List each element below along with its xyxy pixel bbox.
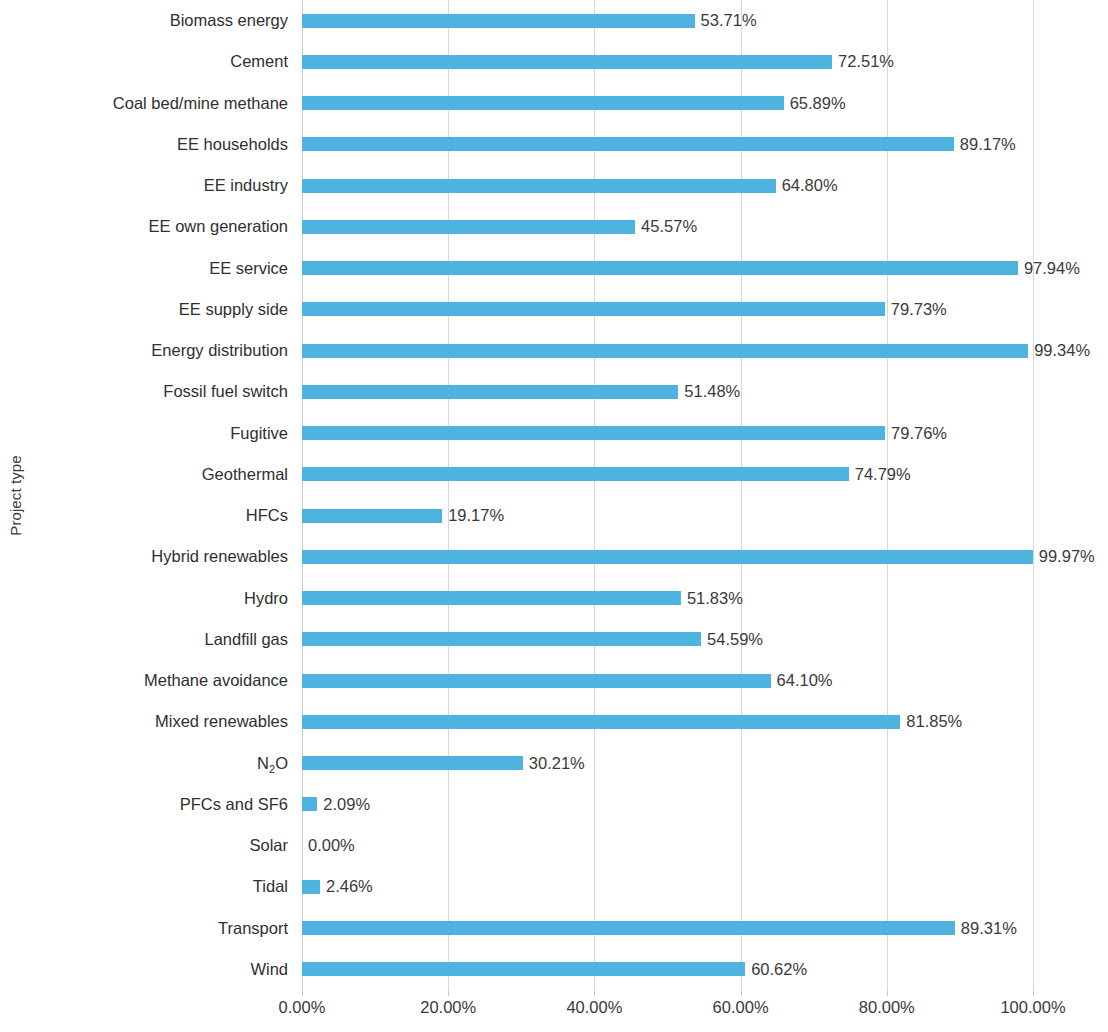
bar[interactable] xyxy=(302,385,678,399)
bar-row[interactable]: N2O30.21% xyxy=(0,743,1108,784)
bar-row[interactable]: PFCs and SF62.09% xyxy=(0,784,1108,825)
bar[interactable] xyxy=(302,302,885,316)
bar[interactable] xyxy=(302,55,832,69)
bar[interactable] xyxy=(302,261,1018,275)
bar-row[interactable]: Mixed renewables81.85% xyxy=(0,701,1108,742)
bar-row[interactable]: Solar0.00% xyxy=(0,825,1108,866)
x-axis-tick-label: 60.00% xyxy=(713,998,769,1017)
category-label: Tidal xyxy=(0,866,288,907)
bar[interactable] xyxy=(302,591,681,605)
category-label: EE supply side xyxy=(0,289,288,330)
bar-row[interactable]: EE own generation45.57% xyxy=(0,206,1108,247)
bar[interactable] xyxy=(302,550,1033,564)
bar-row[interactable]: Hybrid renewables99.97% xyxy=(0,536,1108,577)
bar[interactable] xyxy=(302,344,1028,358)
bar-row[interactable]: Geothermal74.79% xyxy=(0,454,1108,495)
bar-row[interactable]: HFCs19.17% xyxy=(0,495,1108,536)
bar[interactable] xyxy=(302,880,320,894)
bar-row[interactable]: Cement72.51% xyxy=(0,41,1108,82)
bar[interactable] xyxy=(302,220,635,234)
bar-value-label: 2.46% xyxy=(326,866,373,907)
category-label: Energy distribution xyxy=(0,330,288,371)
bar-row[interactable]: EE service97.94% xyxy=(0,248,1108,289)
x-axis-tick-label: 20.00% xyxy=(420,998,476,1017)
bar-row[interactable]: Energy distribution99.34% xyxy=(0,330,1108,371)
bar-row[interactable]: Methane avoidance64.10% xyxy=(0,660,1108,701)
bar-row[interactable]: Fossil fuel switch51.48% xyxy=(0,371,1108,412)
bar-value-label: 0.00% xyxy=(308,825,355,866)
bar[interactable] xyxy=(302,715,900,729)
bar-row[interactable]: EE supply side79.73% xyxy=(0,289,1108,330)
bar-row[interactable]: EE households89.17% xyxy=(0,124,1108,165)
bar-row[interactable]: Wind60.62% xyxy=(0,949,1108,990)
bar[interactable] xyxy=(302,797,317,811)
category-label: Transport xyxy=(0,908,288,949)
bar-value-label: 81.85% xyxy=(906,701,962,742)
bar[interactable] xyxy=(302,674,771,688)
bar[interactable] xyxy=(302,467,849,481)
bar[interactable] xyxy=(302,179,776,193)
category-label: Coal bed/mine methane xyxy=(0,83,288,124)
bar-value-label: 2.09% xyxy=(323,784,370,825)
bar[interactable] xyxy=(302,14,695,28)
category-label: Fossil fuel switch xyxy=(0,371,288,412)
x-axis-tick-label: 40.00% xyxy=(566,998,622,1017)
bar-value-label: 64.80% xyxy=(782,165,838,206)
category-label: EE service xyxy=(0,248,288,289)
bar[interactable] xyxy=(302,137,954,151)
bar[interactable] xyxy=(302,921,955,935)
bar-value-label: 30.21% xyxy=(529,743,585,784)
bar-value-label: 53.71% xyxy=(701,0,757,41)
bar-chart: Project type Biomass energy53.71%Cement7… xyxy=(0,0,1108,1032)
category-label: EE own generation xyxy=(0,206,288,247)
bar-value-label: 60.62% xyxy=(751,949,807,990)
bar-value-label: 99.97% xyxy=(1039,536,1095,577)
bar-row[interactable]: Transport89.31% xyxy=(0,908,1108,949)
category-label: PFCs and SF6 xyxy=(0,784,288,825)
category-label: Wind xyxy=(0,949,288,990)
x-axis-tick xyxy=(302,990,303,996)
bar[interactable] xyxy=(302,426,885,440)
category-label: Mixed renewables xyxy=(0,701,288,742)
bar-row[interactable]: EE industry64.80% xyxy=(0,165,1108,206)
category-label: N2O xyxy=(0,743,288,786)
bar[interactable] xyxy=(302,509,442,523)
bar-value-label: 74.79% xyxy=(855,454,911,495)
bar[interactable] xyxy=(302,962,745,976)
category-label: Hybrid renewables xyxy=(0,536,288,577)
x-axis-tick xyxy=(594,990,595,996)
bar-value-label: 19.17% xyxy=(448,495,504,536)
bar-value-label: 72.51% xyxy=(838,41,894,82)
bar-row[interactable]: Fugitive79.76% xyxy=(0,413,1108,454)
bar[interactable] xyxy=(302,96,784,110)
bar-value-label: 45.57% xyxy=(641,206,697,247)
x-axis-tick xyxy=(887,990,888,996)
bar-row[interactable]: Tidal2.46% xyxy=(0,866,1108,907)
bar-row[interactable]: Hydro51.83% xyxy=(0,578,1108,619)
x-axis-tick-label: 80.00% xyxy=(859,998,915,1017)
bar-row[interactable]: Biomass energy53.71% xyxy=(0,0,1108,41)
bar-value-label: 64.10% xyxy=(777,660,833,701)
x-axis-tick xyxy=(741,990,742,996)
bar-value-label: 97.94% xyxy=(1024,248,1080,289)
category-label: Cement xyxy=(0,41,288,82)
category-label: Hydro xyxy=(0,578,288,619)
category-label: EE households xyxy=(0,124,288,165)
category-label: Solar xyxy=(0,825,288,866)
x-axis-tick xyxy=(1033,990,1034,996)
x-axis-tick-label: 100.00% xyxy=(1000,998,1065,1017)
bar-value-label: 79.76% xyxy=(891,413,947,454)
bar[interactable] xyxy=(302,632,701,646)
category-label: Biomass energy xyxy=(0,0,288,41)
bar-row[interactable]: Coal bed/mine methane65.89% xyxy=(0,83,1108,124)
bar-value-label: 51.83% xyxy=(687,578,743,619)
bar-value-label: 51.48% xyxy=(684,371,740,412)
bar[interactable] xyxy=(302,756,523,770)
bar-value-label: 65.89% xyxy=(790,83,846,124)
category-label: Geothermal xyxy=(0,454,288,495)
category-label: Landfill gas xyxy=(0,619,288,660)
bar-value-label: 79.73% xyxy=(891,289,947,330)
x-axis-tick-label: 0.00% xyxy=(279,998,326,1017)
bar-value-label: 89.17% xyxy=(960,124,1016,165)
bar-row[interactable]: Landfill gas54.59% xyxy=(0,619,1108,660)
